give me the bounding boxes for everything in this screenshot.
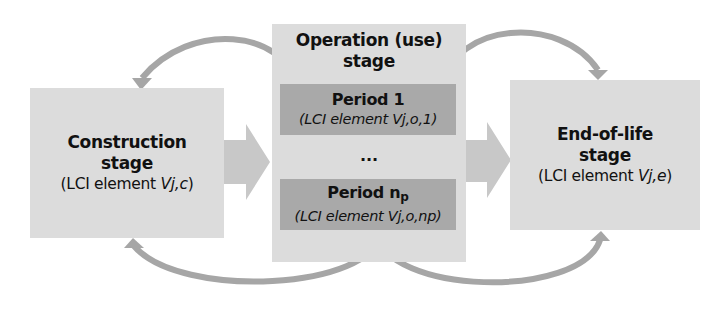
- eol-title-line2: stage: [579, 145, 631, 166]
- period-ellipsis: ...: [272, 146, 466, 165]
- arrow-operation-to-eol: [465, 122, 511, 198]
- period-1-box: Period 1 (LCI element Vj,o,1): [280, 84, 456, 135]
- period-np-title: Period np: [327, 183, 408, 207]
- operation-title-line1: Operation (use): [296, 30, 442, 51]
- operation-title-line2: stage: [343, 51, 395, 72]
- period-1-title: Period 1: [332, 90, 405, 110]
- eol-lci-label: (LCI element Vj,e): [538, 166, 672, 186]
- period-np-subscript: p: [400, 190, 408, 204]
- eol-title-line1: End-of-life: [557, 124, 653, 145]
- period-1-lci-label: (LCI element Vj,o,1): [299, 110, 437, 129]
- period-np-lci-label: (LCI element Vj,o,np): [295, 207, 442, 226]
- eol-lci-variable: Vj,e: [638, 167, 666, 185]
- end-of-life-stage-box: End-of-life stage (LCI element Vj,e): [510, 80, 700, 230]
- period-np-box: Period np (LCI element Vj,o,np): [280, 179, 456, 230]
- arrow-construction-to-operation: [224, 124, 270, 200]
